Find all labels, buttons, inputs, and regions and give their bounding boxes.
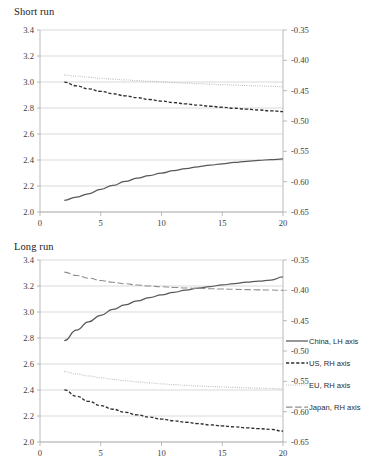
y-axis-right-tick-label: -0.40 [291, 55, 309, 65]
x-axis-tick-label: 20 [279, 448, 288, 458]
x-axis-tick-label: 5 [99, 218, 103, 228]
legend-label-japan: Japan, RH axis [308, 403, 361, 412]
series-line-us [64, 82, 283, 111]
series-line-japan [64, 272, 283, 290]
y-axis-left-tick-label: 2.6 [23, 129, 34, 139]
y-axis-right-tick-label: -0.55 [291, 146, 309, 156]
short-run-chart: 2.02.22.42.62.83.03.23.4-0.65-0.60-0.55-… [0, 0, 369, 238]
y-axis-left-tick-label: 2.8 [23, 103, 34, 113]
legend-swatch-eu [286, 380, 308, 390]
y-axis-left-tick-label: 2.2 [23, 181, 34, 191]
legend-swatch-japan [286, 402, 308, 412]
x-axis-tick-label: 20 [279, 218, 288, 228]
series-line-eu [64, 372, 283, 389]
x-axis-tick-label: 15 [218, 448, 227, 458]
y-axis-left-tick-label: 3.0 [23, 77, 34, 87]
series-line-china [64, 277, 283, 341]
y-axis-right-tick-label: -0.45 [291, 316, 309, 326]
legend-swatch-china [286, 336, 308, 346]
chart-legend: China, LH axisUS, RH axisEU, RH axisJapa… [286, 330, 369, 418]
x-axis-tick-label: 5 [99, 448, 103, 458]
y-axis-right-tick-label: -0.60 [291, 177, 309, 187]
y-axis-left-tick-label: 3.4 [23, 25, 34, 35]
legend-item-eu[interactable]: EU, RH axis [286, 374, 369, 396]
legend-label-us: US, RH axis [308, 359, 350, 368]
y-axis-right-tick-label: -0.35 [291, 25, 309, 35]
x-axis-tick-label: 10 [157, 218, 166, 228]
y-axis-right-tick-label: -0.65 [291, 437, 309, 447]
legend-swatch-us [286, 358, 308, 368]
y-axis-right-tick-label: -0.40 [291, 285, 309, 295]
y-axis-left-tick-label: 3.2 [23, 281, 34, 291]
series-line-us [64, 390, 283, 431]
y-axis-left-tick-label: 2.6 [23, 359, 34, 369]
y-axis-left-tick-label: 3.0 [23, 307, 34, 317]
legend-item-japan[interactable]: Japan, RH axis [286, 396, 369, 418]
y-axis-left-tick-label: 3.2 [23, 51, 34, 61]
legend-item-china[interactable]: China, LH axis [286, 330, 369, 352]
legend-item-us[interactable]: US, RH axis [286, 352, 369, 374]
short-run-panel: Short run 2.02.22.42.62.83.03.23.4-0.65-… [0, 0, 369, 238]
series-line-eu [64, 75, 283, 87]
chart-figure: Short run 2.02.22.42.62.83.03.23.4-0.65-… [0, 0, 369, 473]
y-axis-left-tick-label: 2.0 [23, 207, 34, 217]
y-axis-left-tick-label: 2.4 [23, 385, 34, 395]
long-run-title: Long run [14, 241, 54, 252]
y-axis-left-tick-label: 2.2 [23, 411, 34, 421]
legend-label-china: China, LH axis [308, 337, 358, 346]
x-axis-tick-label: 0 [38, 218, 42, 228]
x-axis-tick-label: 0 [38, 448, 42, 458]
y-axis-left-tick-label: 2.4 [23, 155, 34, 165]
y-axis-right-tick-label: -0.45 [291, 86, 309, 96]
legend-label-eu: EU, RH axis [308, 381, 350, 390]
y-axis-left-tick-label: 3.4 [23, 255, 34, 265]
y-axis-left-tick-label: 2.8 [23, 333, 34, 343]
series-line-china [64, 159, 283, 200]
short-run-title: Short run [14, 6, 54, 17]
y-axis-left-tick-label: 2.0 [23, 437, 34, 447]
x-axis-tick-label: 15 [218, 218, 227, 228]
x-axis-tick-label: 10 [157, 448, 166, 458]
y-axis-right-tick-label: -0.65 [291, 207, 309, 217]
y-axis-right-tick-label: -0.50 [291, 116, 309, 126]
y-axis-right-tick-label: -0.35 [291, 255, 309, 265]
